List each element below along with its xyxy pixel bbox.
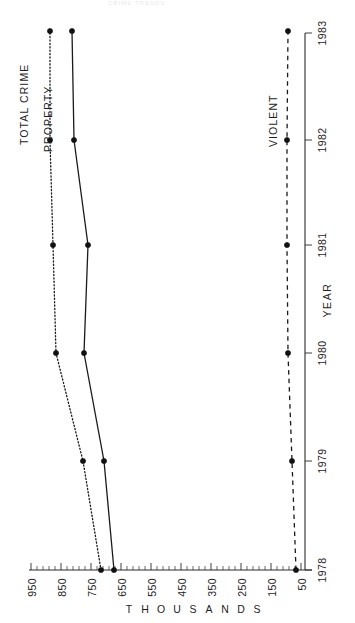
series-property: PROPERTY — [42, 28, 117, 572]
value-axis-ticks — [31, 563, 301, 570]
year-tick-label: 1981 — [316, 233, 328, 258]
value-tick-label: 850 — [56, 578, 68, 597]
category-axis-title: YEAR — [321, 283, 333, 318]
value-axis-title-letter: S — [189, 603, 196, 615]
data-point — [284, 137, 289, 142]
value-axis-title-letter: U — [173, 603, 181, 615]
year-tick-label: 1982 — [316, 128, 328, 153]
data-point — [285, 350, 290, 355]
value-tick-label: 50 — [296, 578, 308, 590]
value-axis-title-letter: T — [126, 603, 133, 615]
data-point — [53, 350, 58, 355]
violent-line — [287, 31, 296, 570]
data-point — [111, 567, 116, 572]
value-tick-label: 950 — [26, 578, 38, 597]
value-tick-label: 250 — [236, 578, 248, 597]
value-tick-label: 150 — [266, 578, 278, 597]
year-tick-label: 1983 — [316, 21, 328, 46]
year-tick-label: 1979 — [316, 449, 328, 474]
value-axis-title-letter: A — [205, 603, 212, 615]
series-label-violent: VIOLENT — [267, 94, 279, 147]
data-point — [98, 567, 103, 572]
value-axis-title-letter: N — [221, 603, 229, 615]
value-axis-title-letter: H — [141, 603, 149, 615]
year-tick-label: 1978 — [316, 558, 328, 583]
value-axis-title-letter: S — [253, 603, 260, 615]
top-edge-artifact-text: CRIME TRENDS — [108, 0, 166, 6]
series-total-crime: TOTAL CRIME — [18, 28, 104, 572]
value-tick-label: 450 — [176, 578, 188, 597]
total-crime-line — [50, 31, 101, 570]
series-violent: VIOLENT — [267, 28, 299, 572]
value-tick-label: 550 — [146, 578, 158, 597]
category-axis-ticks — [305, 33, 312, 570]
year-tick-label: 1980 — [316, 341, 328, 366]
data-point — [285, 28, 290, 33]
data-point — [289, 458, 294, 463]
value-tick-label: 350 — [206, 578, 218, 597]
value-tick-label: 650 — [116, 578, 128, 597]
property-line — [72, 31, 114, 570]
series-label-property: PROPERTY — [42, 86, 54, 152]
value-axis-title: T H O U S A N D S THOUSANDS — [0, 0, 261, 615]
data-point — [69, 28, 74, 33]
data-point — [80, 458, 85, 463]
value-axis-title-letter: O — [157, 603, 165, 615]
series-label-total-crime: TOTAL CRIME — [18, 64, 30, 145]
data-point — [50, 242, 55, 247]
data-point — [293, 567, 298, 572]
chart-canvas: CRIME TRENDS — [0, 0, 355, 623]
data-point — [101, 458, 106, 463]
chart-figure: CRIME TRENDS — [0, 0, 355, 623]
value-axis-tick-labels: 950 850 750 650 550 450 350 250 150 50 — [26, 578, 308, 597]
data-point — [81, 350, 86, 355]
data-point — [47, 28, 52, 33]
data-point — [85, 242, 90, 247]
value-axis-title-letter: D — [237, 603, 245, 615]
value-tick-label: 750 — [86, 578, 98, 597]
data-point — [71, 137, 76, 142]
data-point — [284, 242, 289, 247]
